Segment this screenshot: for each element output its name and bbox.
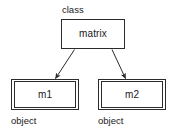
edge-matrix-m1 [56,50,75,79]
object-stereotype-label-m2: object [98,116,123,126]
class-node-label: matrix [79,29,107,39]
object-node-m1-inner-border: m1 [14,81,76,108]
object-node-m2-inner-border: m2 [101,81,163,108]
object-node-m2[interactable]: m2 [98,79,166,110]
object-node-m2-label: m2 [125,90,139,100]
object-node-m1[interactable]: m1 [11,79,79,110]
class-node-matrix[interactable]: matrix [61,19,125,49]
object-node-m1-label: m1 [38,90,52,100]
edge-matrix-m2 [112,50,126,79]
object-stereotype-label-m1: object [11,116,36,126]
diagram-canvas: class matrix m1 object m2 object [0,0,174,133]
class-stereotype-label: class [62,5,84,15]
